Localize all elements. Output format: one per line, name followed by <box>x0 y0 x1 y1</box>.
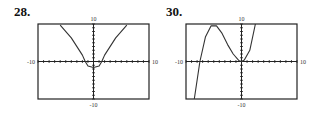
tick-label-left: -10 <box>175 59 183 65</box>
tick-label-left: -10 <box>27 59 35 65</box>
tick-label-bottom: -10 <box>238 102 246 108</box>
graph-28: 10-10-1010 <box>27 16 158 108</box>
tick-label-bottom: -10 <box>90 102 98 108</box>
tick-label-top: 10 <box>91 16 97 22</box>
graph-30: 10-10-1010 <box>175 16 306 108</box>
tick-label-right: 10 <box>300 59 306 65</box>
tick-label-right: 10 <box>152 59 158 65</box>
tick-label-top: 10 <box>239 16 245 22</box>
charts-svg: 10-10-1010 10-10-1010 <box>0 0 322 115</box>
